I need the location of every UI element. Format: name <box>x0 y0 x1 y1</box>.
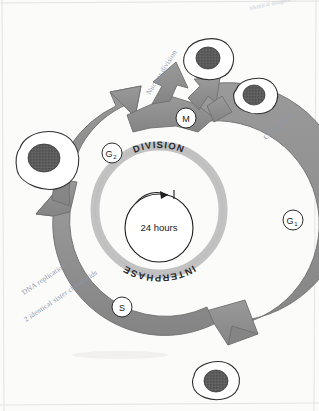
paper-smudge <box>72 351 168 359</box>
cell-nucleus <box>196 47 220 69</box>
cell-nucleus <box>243 85 265 105</box>
phase-marker-g2[interactable]: G 2 <box>102 143 122 163</box>
duration-label: 24 hours <box>141 222 178 233</box>
phase-letter-g1: G <box>286 216 293 226</box>
parent-cell-bottom <box>193 362 240 400</box>
phase-marker-g1[interactable]: G 1 <box>283 210 303 230</box>
phase-marker-s[interactable]: S <box>112 297 132 317</box>
phase-marker-m[interactable]: M <box>176 108 196 128</box>
daughter-cell-top <box>184 39 234 80</box>
cell-nucleus <box>28 144 60 172</box>
cell-nucleus <box>204 370 228 392</box>
phase-letter-m: M <box>182 114 190 124</box>
daughter-cell-upper-left <box>16 132 79 190</box>
daughter-cell-top-right <box>234 78 278 113</box>
phase-letter-g2: G <box>105 149 112 159</box>
phase-letter-s: S <box>119 303 125 313</box>
cell-cycle-diagram: 24 hours DIVISION INTERPHASE M G 1 S <box>0 0 319 411</box>
